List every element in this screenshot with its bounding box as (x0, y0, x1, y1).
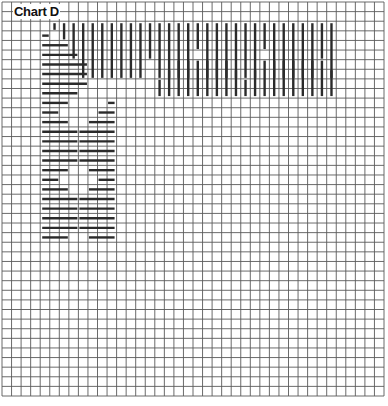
chart-title: Chart D (13, 4, 60, 19)
stitch-chart (0, 0, 388, 406)
